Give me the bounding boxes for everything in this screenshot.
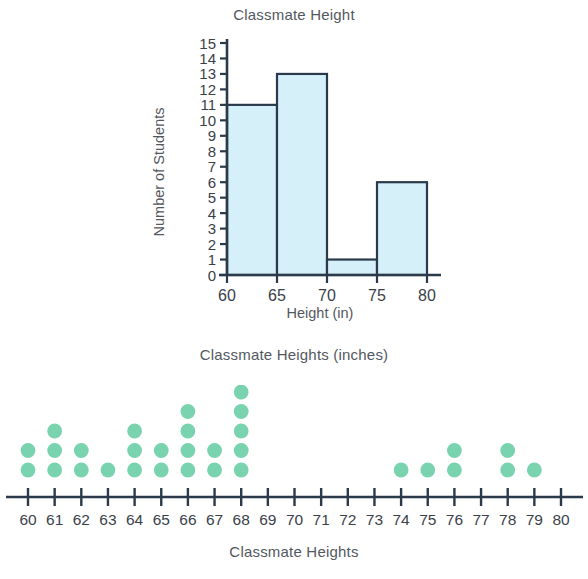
- histogram-y-tick-label: 6: [208, 174, 216, 191]
- dotplot-dot: [234, 404, 249, 419]
- dotplot-caption: Classmate Heights: [0, 543, 588, 560]
- histogram-plot-area: 0123456789101112131415 6065707580: [185, 30, 445, 305]
- histogram-y-tick-label: 11: [200, 96, 216, 113]
- histogram-x-tick-label: 75: [368, 287, 386, 304]
- dotplot-dot: [181, 404, 196, 419]
- histogram-bar: [327, 260, 377, 275]
- histogram-y-tick-label: 1: [208, 251, 216, 268]
- histogram-y-tick-label: 4: [208, 205, 216, 222]
- dotplot-dot: [47, 443, 62, 458]
- dotplot-dot: [181, 443, 196, 458]
- dotplot-dot: [234, 385, 249, 399]
- dotplot-dot: [234, 463, 249, 478]
- dotplot-dots: [21, 385, 542, 477]
- dotplot-dot: [21, 463, 36, 478]
- histogram-y-tick-label: 5: [208, 189, 216, 206]
- dotplot-figure: Classmate Heights (inches) 6061626364656…: [0, 330, 588, 579]
- histogram-x-tick-label: 80: [418, 287, 436, 304]
- dotplot-dot: [47, 463, 62, 478]
- histogram-x-tick-label: 65: [268, 287, 286, 304]
- dotplot-tick-label: 64: [126, 511, 144, 528]
- dotplot-tick-label: 67: [206, 511, 223, 528]
- dotplot-dot: [527, 463, 542, 478]
- histogram-bars: [227, 74, 427, 275]
- histogram-y-tick-label: 12: [199, 81, 216, 98]
- dotplot-title: Classmate Heights (inches): [0, 346, 588, 363]
- dotplot-dot: [74, 463, 89, 478]
- dotplot-dot: [500, 463, 515, 478]
- histogram-y-tick-label: 8: [208, 143, 216, 160]
- dotplot-dot: [181, 463, 196, 478]
- dotplot-dot: [447, 443, 462, 458]
- dotplot-tick-label: 75: [419, 511, 436, 528]
- dotplot-dot: [21, 443, 36, 458]
- histogram-y-tick-label: 9: [208, 127, 216, 144]
- dotplot-tick-label: 76: [446, 511, 463, 528]
- dotplot-tick-label: 78: [499, 511, 516, 528]
- dotplot-tick-label: 65: [153, 511, 170, 528]
- histogram-x-axis-label: Height (in): [200, 305, 440, 321]
- dotplot-dot: [127, 424, 142, 439]
- dotplot-tick-label: 79: [526, 511, 543, 528]
- dotplot-dot: [420, 463, 435, 478]
- dotplot-dot: [74, 443, 89, 458]
- dotplot-dot: [394, 463, 409, 478]
- histogram-y-tick-label: 10: [199, 112, 216, 129]
- dotplot-dot: [207, 443, 222, 458]
- dotplot-tick-label: 71: [313, 511, 330, 528]
- dotplot-dot: [181, 424, 196, 439]
- dotplot-tick-label: 62: [73, 511, 90, 528]
- histogram-y-tick-label: 7: [208, 158, 216, 175]
- dotplot-dot: [47, 424, 62, 439]
- dotplot-plot-area: 6061626364656667686970717273747576777879…: [0, 385, 588, 535]
- dotplot-dot: [154, 463, 169, 478]
- dotplot-dot: [207, 463, 222, 478]
- dotplot-tick-label: 80: [552, 511, 570, 528]
- histogram-y-tick-label: 13: [199, 65, 216, 82]
- histogram-y-tick-label: 3: [208, 220, 216, 237]
- histogram-y-tick-label: 0: [208, 267, 216, 284]
- dotplot-dot: [127, 463, 142, 478]
- dotplot-tick-label: 60: [19, 511, 37, 528]
- histogram-x-tick-label: 70: [318, 287, 336, 304]
- dotplot-tick-label: 70: [286, 511, 304, 528]
- dotplot-tick-label: 69: [259, 511, 276, 528]
- histogram-bar: [277, 74, 327, 275]
- histogram-x-tick-label: 60: [218, 287, 236, 304]
- histogram-y-tick-label: 14: [199, 50, 216, 67]
- histogram-figure: Classmate Height Number of Students Heig…: [0, 0, 588, 330]
- dotplot-number-line: 6061626364656667686970717273747576777879…: [6, 488, 583, 528]
- dotplot-tick-label: 68: [233, 511, 250, 528]
- dotplot-tick-label: 77: [472, 511, 489, 528]
- dotplot-dot: [447, 463, 462, 478]
- dotplot-dot: [234, 424, 249, 439]
- dotplot-tick-label: 72: [339, 511, 356, 528]
- histogram-y-tick-label: 2: [208, 236, 216, 253]
- histogram-y-tick-label: 15: [199, 35, 216, 52]
- dotplot-tick-label: 74: [392, 511, 410, 528]
- dotplot-dot: [127, 443, 142, 458]
- histogram-y-axis-label: Number of Students: [151, 62, 171, 282]
- dotplot-dot: [154, 443, 169, 458]
- dotplot-dot: [234, 443, 249, 458]
- dotplot-dot: [101, 463, 116, 478]
- histogram-bar: [377, 182, 427, 275]
- dotplot-dot: [500, 443, 515, 458]
- histogram-x-axis: 6065707580: [218, 275, 441, 304]
- dotplot-tick-label: 66: [179, 511, 196, 528]
- dotplot-tick-label: 73: [366, 511, 383, 528]
- dotplot-tick-label: 61: [46, 511, 63, 528]
- histogram-y-axis: 0123456789101112131415: [199, 35, 227, 284]
- histogram-title: Classmate Height: [0, 6, 588, 23]
- histogram-bar: [227, 105, 277, 275]
- dotplot-tick-label: 63: [99, 511, 116, 528]
